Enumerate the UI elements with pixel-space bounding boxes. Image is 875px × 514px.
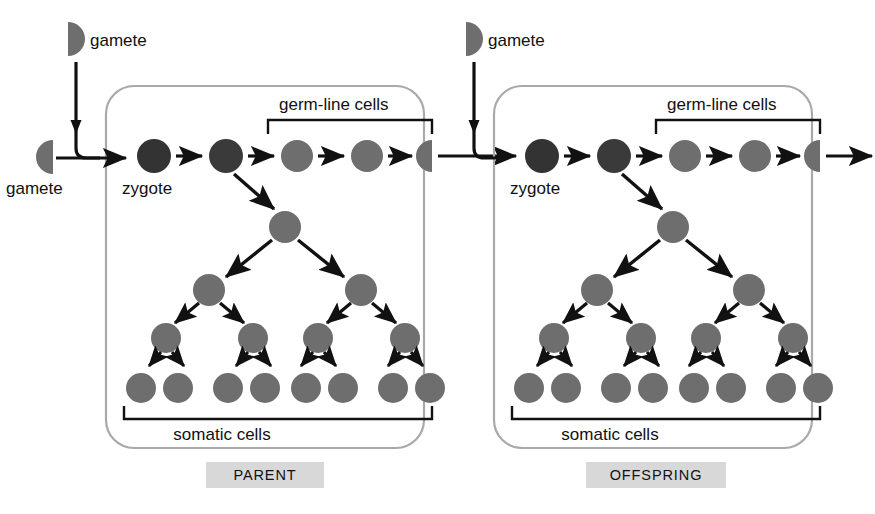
somatic-cell-l4-7-parent xyxy=(415,373,445,403)
somatic-branch-l2-1-left-parent xyxy=(327,303,351,323)
gamete-output-offspring xyxy=(804,140,820,172)
panel-tag-offspring: OFFSPRING xyxy=(610,467,703,483)
somatic-branch-l2-1-right-parent xyxy=(372,303,396,323)
somatic-branch-root-offspring xyxy=(622,174,662,209)
somatic-bracket-offspring xyxy=(512,406,820,419)
somatic-branch-l3-0-right-offspring xyxy=(560,352,572,366)
somatic-branch-l3-2-left-offspring xyxy=(689,352,701,366)
somatic-cell-l3-3-offspring xyxy=(778,323,808,353)
zygote-cell-offspring xyxy=(525,139,559,173)
panel-tag-parent: PARENT xyxy=(233,467,296,483)
somatic-cell-l4-0-parent xyxy=(126,373,156,403)
somatic-branch-l2-1-right-offspring xyxy=(760,303,784,323)
somatic-cell-l4-4-parent xyxy=(291,373,321,403)
somatic-branch-l3-2-left-parent xyxy=(301,352,313,366)
somatic-cell-l3-2-offspring xyxy=(691,323,721,353)
somatic-cell-l4-1-offspring xyxy=(551,373,581,403)
somatic-branch-l3-3-left-parent xyxy=(388,352,400,366)
somatic-cell-l4-7-offspring xyxy=(803,373,833,403)
somatic-cell-l4-0-offspring xyxy=(514,373,544,403)
gamete-top-arrowhead-offspring xyxy=(469,120,480,134)
somatic-cell-l4-3-parent xyxy=(250,373,280,403)
somatic-branch-l1-left-offspring xyxy=(614,240,660,277)
somatic-bracket-label-offspring: somatic cells xyxy=(561,425,658,444)
germline-cell-3-offspring xyxy=(669,140,701,172)
somatic-branch-l3-1-left-parent xyxy=(236,352,248,366)
panel-parent: gamete gamete zygote germ-lin xyxy=(6,22,445,488)
somatic-cell-l1-0-offspring xyxy=(657,211,689,243)
gamete-top-offspring xyxy=(466,22,483,56)
gamete-left-parent xyxy=(36,140,53,174)
somatic-branch-l3-0-right-parent xyxy=(172,352,184,366)
somatic-branch-l3-0-left-offspring xyxy=(537,352,549,366)
germline-cell-2-parent xyxy=(209,139,243,173)
somatic-branch-l3-1-right-parent xyxy=(259,352,271,366)
somatic-bracket-parent xyxy=(124,406,432,419)
somatic-cell-l4-6-offspring xyxy=(766,373,796,403)
gamete-top-parent xyxy=(68,22,85,56)
somatic-branch-l3-1-right-offspring xyxy=(647,352,659,366)
somatic-branch-l1-left-parent xyxy=(226,240,272,277)
gamete-top-arrow-parent xyxy=(76,62,100,158)
somatic-cell-l3-0-parent xyxy=(151,323,181,353)
gamete-top-label-offspring: gamete xyxy=(488,31,545,50)
germline-cell-2-offspring xyxy=(597,139,631,173)
gamete-top-arrowhead-parent xyxy=(71,120,82,134)
germline-bracket-offspring xyxy=(656,120,820,134)
somatic-branch-l3-3-right-parent xyxy=(411,352,423,366)
germline-bracket-label-parent: germ-line cells xyxy=(279,95,389,114)
somatic-branch-l2-0-right-parent xyxy=(220,303,244,323)
somatic-branch-l1-right-parent xyxy=(298,240,344,277)
somatic-cell-l2-1-offspring xyxy=(733,274,765,306)
zygote-label-offspring: zygote xyxy=(510,179,560,198)
zygote-cell-parent xyxy=(137,139,171,173)
germline-cell-4-parent xyxy=(351,140,383,172)
somatic-cell-l4-3-offspring xyxy=(638,373,668,403)
somatic-cell-l4-4-offspring xyxy=(679,373,709,403)
germline-bracket-label-offspring: germ-line cells xyxy=(667,95,777,114)
panel-offspring: gamete zygote germ-line cells xyxy=(466,22,833,488)
somatic-cell-l4-2-parent xyxy=(213,373,243,403)
gamete-output-parent xyxy=(416,140,432,172)
diagram-canvas: gamete gamete zygote germ-lin xyxy=(0,0,875,514)
somatic-cell-l1-0-parent xyxy=(269,211,301,243)
somatic-cell-l2-0-parent xyxy=(193,274,225,306)
somatic-branch-l2-0-left-offspring xyxy=(563,303,587,323)
somatic-branch-l2-0-left-parent xyxy=(175,303,199,323)
somatic-branch-l3-1-left-offspring xyxy=(624,352,636,366)
germline-bracket-parent xyxy=(268,120,432,134)
somatic-cell-l4-1-parent xyxy=(163,373,193,403)
somatic-cell-l3-3-parent xyxy=(390,323,420,353)
somatic-cell-l3-1-parent xyxy=(238,323,268,353)
germline-cell-3-parent xyxy=(281,140,313,172)
somatic-cell-l4-5-parent xyxy=(328,373,358,403)
gamete-left-label-parent: gamete xyxy=(6,179,63,198)
germline-cell-4-offspring xyxy=(739,140,771,172)
somatic-branch-l3-0-left-parent xyxy=(149,352,161,366)
somatic-cell-l3-0-offspring xyxy=(539,323,569,353)
somatic-branch-l3-2-right-offspring xyxy=(712,352,724,366)
somatic-branch-l3-3-left-offspring xyxy=(776,352,788,366)
somatic-branch-l3-2-right-parent xyxy=(324,352,336,366)
somatic-cell-l4-5-offspring xyxy=(716,373,746,403)
zygote-label-parent: zygote xyxy=(122,179,172,198)
somatic-branch-root-parent xyxy=(234,174,274,209)
somatic-branch-l2-0-right-offspring xyxy=(608,303,632,323)
somatic-cell-l2-1-parent xyxy=(345,274,377,306)
germline-somatic-lineage-diagram: gamete gamete zygote germ-lin xyxy=(0,0,875,514)
somatic-bracket-label-parent: somatic cells xyxy=(173,425,270,444)
somatic-cell-l3-2-parent xyxy=(303,323,333,353)
somatic-branch-l2-1-left-offspring xyxy=(715,303,739,323)
somatic-branch-l3-3-right-offspring xyxy=(799,352,811,366)
somatic-branch-l1-right-offspring xyxy=(686,240,732,277)
somatic-cell-l4-2-offspring xyxy=(601,373,631,403)
somatic-cell-l2-0-offspring xyxy=(581,274,613,306)
somatic-cell-l4-6-parent xyxy=(378,373,408,403)
gamete-top-label-parent: gamete xyxy=(90,31,147,50)
somatic-cell-l3-1-offspring xyxy=(626,323,656,353)
